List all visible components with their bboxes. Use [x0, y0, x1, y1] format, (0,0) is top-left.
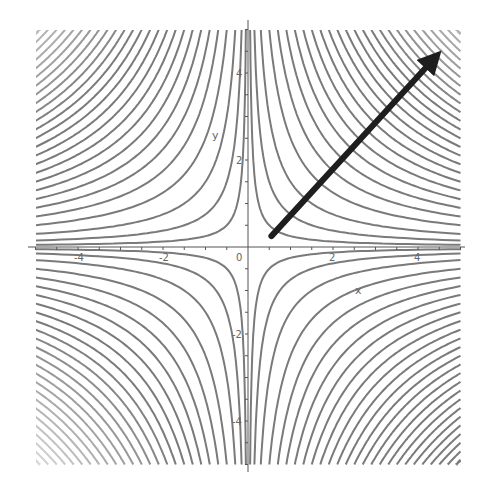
contour-line — [456, 460, 460, 464]
contour-line — [36, 321, 176, 465]
y-tick-label: -4 — [232, 416, 242, 427]
y-tick-label: 2 — [236, 155, 242, 166]
y-axis-label: y — [212, 129, 219, 142]
y-tick-label: -2 — [232, 329, 242, 340]
axes — [28, 20, 465, 472]
x-tick-label: -4 — [74, 252, 84, 263]
contour-line — [36, 30, 242, 241]
contour-line — [36, 30, 176, 174]
x-tick-label: 0 — [236, 252, 242, 263]
contour-line — [422, 425, 460, 464]
contour-line — [36, 30, 100, 95]
gradient-arrow — [271, 58, 434, 236]
x-tick-label: 2 — [329, 252, 335, 263]
contour-line — [405, 408, 460, 465]
contour-line — [250, 249, 460, 464]
x-tick-label: -2 — [159, 252, 169, 263]
contour-line — [36, 30, 134, 130]
contour-line — [36, 408, 91, 465]
contour-line — [456, 30, 460, 34]
contour-line — [286, 286, 460, 464]
contour-line — [36, 399, 100, 464]
contour-line — [36, 364, 134, 464]
contour-line — [320, 321, 460, 465]
contour-line — [36, 254, 242, 465]
x-tick-label: 4 — [414, 252, 420, 263]
contour-plot: -4-2024-4-224 x y — [0, 0, 487, 496]
contour-line — [36, 425, 74, 464]
contour-line — [36, 30, 91, 87]
y-tick-label: 4 — [236, 68, 242, 79]
contour-line — [320, 30, 460, 174]
contour-line — [36, 460, 40, 464]
contour-line — [36, 249, 246, 464]
contour-line — [36, 30, 40, 34]
contour-line — [36, 30, 74, 69]
contour-line — [36, 30, 210, 208]
contour-line — [36, 286, 210, 464]
contour-line — [363, 364, 461, 464]
x-axis-label: x — [355, 284, 362, 297]
contour-line — [397, 399, 461, 464]
